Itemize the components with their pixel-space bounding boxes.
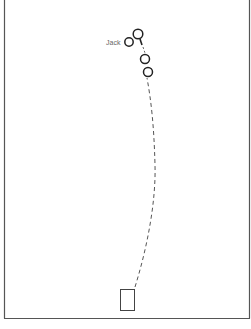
jack-label: Jack — [106, 39, 121, 46]
ball-3 — [144, 68, 153, 77]
contact-path — [143, 47, 145, 53]
mat — [121, 290, 135, 311]
ball-1 — [133, 29, 143, 39]
delivery-path — [135, 78, 155, 287]
bowls-diagram: Jack — [0, 0, 251, 329]
ball-2 — [141, 55, 150, 64]
contact-arrow — [140, 39, 142, 45]
jack — [125, 38, 133, 46]
